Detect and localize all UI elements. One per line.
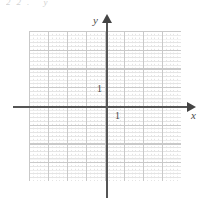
x-axis-line: [13, 106, 189, 108]
scan-artifact-text: 22. y: [6, 0, 116, 7]
coordinate-plane-figure: 22. y y x 1 1: [0, 0, 205, 203]
y-axis-up-arrow-icon: [102, 14, 112, 23]
x-axis-unit-tick-label: 1: [115, 111, 120, 121]
x-axis-label: x: [191, 110, 196, 121]
y-axis-line: [106, 22, 108, 198]
y-axis-label: y: [93, 15, 98, 26]
y-axis-unit-tick-label: 1: [97, 84, 102, 94]
